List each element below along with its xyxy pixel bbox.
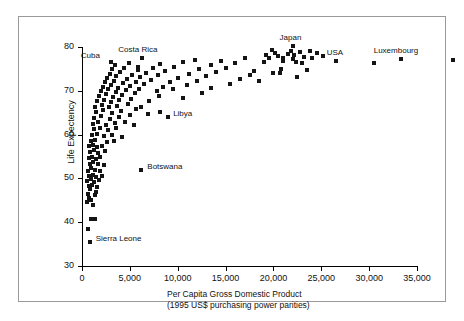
data-point: [104, 92, 108, 96]
data-point: [130, 73, 134, 77]
data-point: [138, 75, 142, 79]
x-tick-mark: [82, 267, 83, 271]
data-point-labeled: [109, 60, 113, 64]
data-point: [238, 77, 242, 81]
data-point: [108, 72, 112, 76]
data-point: [144, 71, 148, 75]
data-point: [134, 80, 138, 84]
data-point: [100, 103, 104, 107]
y-tick-label: 30: [52, 260, 74, 271]
figure-frame: 05,00010,00015,00020,00025,00030,00035,0…: [18, 16, 446, 302]
data-point: [214, 70, 218, 74]
data-point: [92, 180, 96, 184]
data-point: [372, 61, 376, 65]
data-point: [112, 139, 116, 143]
data-point: [98, 126, 102, 130]
data-point: [134, 107, 138, 111]
y-axis-title: Life Expectency: [66, 72, 76, 192]
data-point: [136, 68, 140, 72]
data-point: [187, 72, 191, 76]
data-point: [98, 155, 102, 159]
data-point: [294, 60, 298, 64]
data-point: [302, 55, 306, 59]
data-point: [157, 94, 161, 98]
data-point: [128, 113, 132, 117]
data-point: [118, 70, 122, 74]
data-point: [273, 51, 277, 55]
data-point: [99, 89, 103, 93]
data-point: [111, 95, 115, 99]
x-tick-label: 35,000: [387, 273, 447, 284]
data-point-labeled: [399, 57, 403, 61]
data-point-labeled: [334, 59, 338, 63]
data-point: [137, 87, 141, 91]
data-point: [193, 58, 197, 62]
data-point: [185, 83, 189, 87]
data-point: [129, 97, 133, 101]
data-point: [181, 60, 185, 64]
data-point: [113, 63, 117, 67]
data-point-labeled: [166, 115, 170, 119]
data-point: [149, 78, 153, 82]
data-point: [96, 120, 100, 124]
data-point: [93, 105, 97, 109]
data-point: [120, 93, 124, 97]
data-point: [108, 117, 112, 121]
x-tick-mark: [130, 267, 131, 271]
data-point: [110, 133, 114, 137]
data-point: [161, 85, 165, 89]
data-point: [139, 105, 143, 109]
data-point: [106, 128, 110, 132]
data-point: [114, 74, 118, 78]
data-point: [321, 54, 325, 58]
x-axis-title-line2: (1995 US$ purchasing power parities): [167, 300, 310, 311]
data-point: [142, 82, 146, 86]
data-point: [271, 71, 275, 75]
data-point: [315, 51, 319, 55]
data-point: [248, 73, 252, 77]
data-point: [133, 91, 137, 95]
point-annotation: Libya: [173, 109, 192, 118]
data-point: [92, 127, 96, 131]
x-tick-mark: [417, 267, 418, 271]
data-point: [114, 90, 118, 94]
data-point: [146, 112, 150, 116]
data-point: [451, 58, 455, 62]
data-point: [155, 89, 159, 93]
data-point: [94, 190, 98, 194]
data-point: [95, 132, 99, 136]
point-annotation: Japan: [280, 33, 302, 42]
point-annotation: Costa Rica: [118, 45, 157, 54]
data-point: [171, 87, 175, 91]
data-point: [127, 61, 131, 65]
data-point: [209, 86, 213, 90]
data-point: [125, 77, 129, 81]
data-point: [107, 105, 111, 109]
data-point: [93, 168, 97, 172]
data-point: [120, 135, 124, 139]
data-point: [105, 140, 109, 144]
data-point: [95, 145, 99, 149]
data-point: [172, 65, 176, 69]
data-point: [102, 98, 106, 102]
point-annotation: Botswana: [147, 162, 182, 171]
data-point: [94, 110, 98, 114]
data-point: [116, 86, 120, 90]
data-point: [209, 63, 213, 67]
data-point: [110, 67, 114, 71]
x-tick-mark: [178, 267, 179, 271]
data-point: [86, 192, 90, 196]
x-tick-mark: [273, 267, 274, 271]
data-point: [219, 59, 223, 63]
data-point: [264, 53, 268, 57]
data-point: [119, 109, 123, 113]
data-point: [101, 108, 105, 112]
data-point: [176, 76, 180, 80]
x-tick-mark: [226, 267, 227, 271]
data-point: [93, 217, 97, 221]
y-tick-mark: [78, 266, 82, 267]
data-point: [114, 126, 118, 130]
data-point: [100, 174, 104, 178]
data-point: [109, 83, 113, 87]
data-point: [289, 49, 293, 53]
